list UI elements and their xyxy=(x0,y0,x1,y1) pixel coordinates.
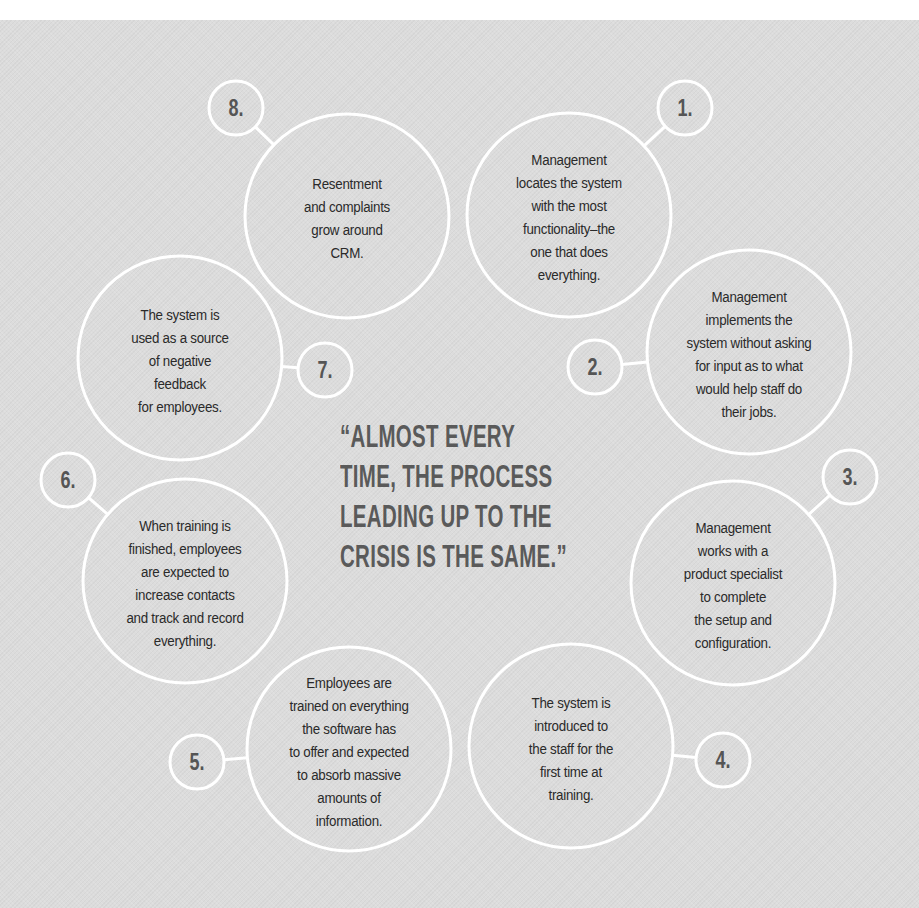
step-description-line: are expected to xyxy=(126,560,243,583)
step-description-line: Management xyxy=(687,285,812,308)
step-description-line: works with a xyxy=(684,539,782,562)
quote-line: CRISIS IS THE SAME.” xyxy=(340,537,538,577)
step-description-line: CRM. xyxy=(304,241,390,264)
step-description-line: with the most xyxy=(516,194,622,217)
step-description-line: for input as to what xyxy=(687,354,812,377)
step-description-line: Employees are xyxy=(289,671,409,694)
step-description-line: grow around xyxy=(304,218,390,241)
step-number: 4. xyxy=(715,746,730,774)
step-description-line: locates the system xyxy=(516,171,622,194)
step-description-line: feedback xyxy=(131,372,228,395)
step-description-line: introduced to xyxy=(529,714,613,737)
step-description-line: increase contacts xyxy=(126,583,243,606)
step-description-line: for employees. xyxy=(131,395,228,418)
step-number: 8. xyxy=(228,94,243,122)
step-description-line: Management xyxy=(684,516,782,539)
step-description-line: and track and record xyxy=(126,606,243,629)
step-description: The system isused as a sourceof negative… xyxy=(131,303,228,418)
step-description-line: The system is xyxy=(529,691,613,714)
step-description: When training isfinished, employeesare e… xyxy=(126,514,243,652)
step-description: Managementlocates the systemwith the mos… xyxy=(516,148,622,286)
step-description-line: When training is xyxy=(126,514,243,537)
step-description-line: the software has xyxy=(289,717,409,740)
step-description-line: their jobs. xyxy=(687,400,812,423)
step-description: Resentmentand complaintsgrow aroundCRM. xyxy=(304,172,390,264)
step-description-line: configuration. xyxy=(684,631,782,654)
connector-line xyxy=(255,127,274,145)
connector-line xyxy=(622,362,648,364)
step-description: Employees aretrained on everythingthe so… xyxy=(289,671,409,832)
connector-line xyxy=(88,498,107,515)
step-description-line: to offer and expected xyxy=(289,740,409,763)
quote-line: LEADING UP TO THE xyxy=(340,497,538,537)
step-description-line: the setup and xyxy=(684,608,782,631)
step-description-line: product specialist xyxy=(684,562,782,585)
step-number: 2. xyxy=(587,353,602,381)
step-description-line: the staff for the xyxy=(529,737,613,760)
step-description-line: one that does xyxy=(516,240,622,263)
step-number: 1. xyxy=(677,94,692,122)
step-description-line: used as a source xyxy=(131,326,228,349)
step-description: The system isintroduced tothe staff for … xyxy=(529,691,613,806)
step-number: 6. xyxy=(60,466,75,494)
step-description-line: implements the xyxy=(687,308,812,331)
connector-line xyxy=(809,495,830,514)
step-description-line: trained on everything xyxy=(289,694,409,717)
step-description-line: of negative xyxy=(131,349,228,372)
quote-line: “ALMOST EVERY xyxy=(340,417,538,457)
step-description-line: everything. xyxy=(126,629,243,652)
step-description-line: system without asking xyxy=(687,331,812,354)
step-description-line: finished, employees xyxy=(126,537,243,560)
step-description-line: Resentment xyxy=(304,172,390,195)
step-description-line: amounts of xyxy=(289,786,409,809)
step-description-line: everything. xyxy=(516,263,622,286)
step-number: 7. xyxy=(317,356,332,384)
connector-line xyxy=(644,126,665,146)
step-description-line: and complaints xyxy=(304,195,390,218)
connector-line xyxy=(224,758,247,760)
quote-line: TIME, THE PROCESS xyxy=(340,457,538,497)
step-description-line: information. xyxy=(289,809,409,832)
step-description-line: The system is xyxy=(131,303,228,326)
step-number: 5. xyxy=(189,748,204,776)
step-number: 3. xyxy=(842,463,857,491)
step-description-line: first time at xyxy=(529,760,613,783)
center-quote: “ALMOST EVERY TIME, THE PROCESS LEADING … xyxy=(340,417,538,577)
step-description-line: training. xyxy=(529,783,613,806)
step-description: Managementworks with aproduct specialist… xyxy=(684,516,782,654)
step-description-line: to absorb massive xyxy=(289,763,409,786)
connector-line xyxy=(282,366,298,367)
connector-line xyxy=(673,755,697,757)
step-description-line: would help staff do xyxy=(687,377,812,400)
step-description-line: to complete xyxy=(684,585,782,608)
step-description: Managementimplements thesystem without a… xyxy=(687,285,812,423)
step-description-line: Management xyxy=(516,148,622,171)
step-description-line: functionality–the xyxy=(516,217,622,240)
